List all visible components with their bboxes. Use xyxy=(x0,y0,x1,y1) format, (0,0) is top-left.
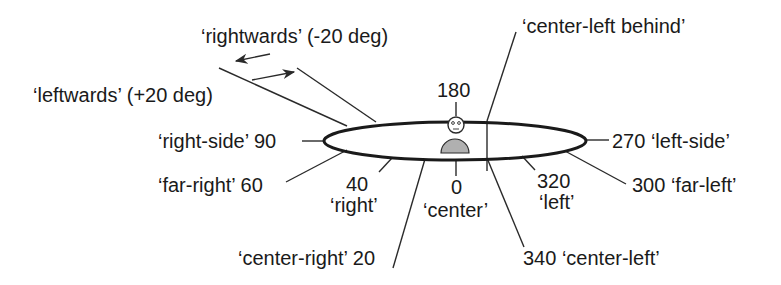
leftwards-arrow-icon xyxy=(252,72,294,80)
label-0: 0 xyxy=(451,176,462,198)
leftwards-ray xyxy=(297,68,376,122)
label-far-right: ‘far-right’ 60 xyxy=(158,174,263,196)
ray-60 xyxy=(286,150,347,182)
rightwards-ray xyxy=(219,68,347,126)
label-far-left: 300 ‘far-left’ xyxy=(632,174,737,196)
label-rightwards: ‘rightwards’ (-20 deg) xyxy=(201,25,388,47)
ray-340 xyxy=(487,158,524,247)
label-left-side: 270 ‘left-side’ xyxy=(612,130,730,152)
center-left-behind-ray xyxy=(487,32,516,121)
ray-20 xyxy=(393,159,425,268)
ray-300 xyxy=(565,151,626,184)
label-right: ‘right’ xyxy=(330,194,378,216)
label-center-left: 340 ‘center-left’ xyxy=(523,247,660,269)
direction-diagram: ‘rightwards’ (-20 deg) ‘leftwards’ (+20 … xyxy=(0,0,781,285)
label-center-left-behind: ‘center-left behind’ xyxy=(522,15,685,37)
label-320: 320 xyxy=(537,170,570,192)
label-40: 40 xyxy=(346,173,368,195)
label-center: ‘center’ xyxy=(423,199,488,221)
label-center-right: ‘center-right’ 20 xyxy=(238,247,375,269)
label-left: ‘left’ xyxy=(539,191,575,213)
label-leftwards: ‘leftwards’ (+20 deg) xyxy=(33,84,213,106)
label-right-side: ‘right-side’ 90 xyxy=(158,130,276,152)
label-180: 180 xyxy=(437,79,470,101)
ray-40 xyxy=(379,158,392,172)
rightwards-arrow-icon xyxy=(236,54,270,61)
